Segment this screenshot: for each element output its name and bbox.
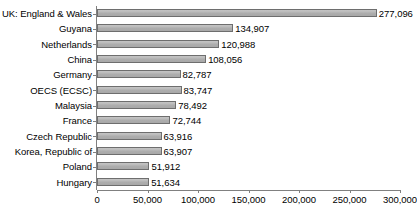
bar <box>97 132 162 140</box>
bar-row: Germany82,787 <box>0 67 409 81</box>
bar <box>97 70 181 78</box>
y-axis-tick <box>93 90 96 91</box>
y-axis-tick <box>93 167 96 168</box>
x-axis-tick-mark <box>198 190 199 193</box>
bar-value-label: 83,747 <box>184 84 213 95</box>
x-axis-tick-label: 200,000 <box>282 194 316 205</box>
bar-row: France72,744 <box>0 113 409 127</box>
category-label: Guyana <box>59 23 92 34</box>
x-axis-tick-mark <box>299 190 300 193</box>
bar-value-label: 78,492 <box>178 100 207 111</box>
bar-value-label: 120,988 <box>221 38 255 49</box>
category-label: UK: England & Wales <box>2 8 92 19</box>
bar-row: UK: England & Wales277,096 <box>0 6 409 20</box>
category-label: Hungary <box>56 176 92 187</box>
x-axis-tick-mark <box>249 190 250 193</box>
bar <box>97 86 182 94</box>
y-axis-tick <box>93 182 96 183</box>
category-label: OECS (ECSC) <box>30 84 92 95</box>
bar-value-label: 108,056 <box>208 54 242 65</box>
category-label: Korea, Republic of <box>15 146 92 157</box>
y-axis-tick <box>93 29 96 30</box>
y-axis-tick <box>93 152 96 153</box>
y-axis-tick <box>93 121 96 122</box>
bar-row: Guyana134,907 <box>0 21 409 35</box>
bar-value-label: 134,907 <box>235 23 269 34</box>
bar-rows: UK: England & Wales277,096Guyana134,907N… <box>0 6 409 190</box>
bar-row: Netherlands120,988 <box>0 37 409 51</box>
x-axis-tick-label: 150,000 <box>232 194 266 205</box>
bar-row: China108,056 <box>0 52 409 66</box>
x-axis-ticks: 050,000100,000150,000200,000250,000300,0… <box>0 190 409 214</box>
bar <box>97 40 219 48</box>
x-axis-tick-mark <box>97 190 98 193</box>
x-axis-tick-mark <box>350 190 351 193</box>
y-axis-tick <box>93 106 96 107</box>
y-axis-tick <box>93 44 96 45</box>
bar <box>97 101 176 109</box>
category-label: China <box>67 54 92 65</box>
y-axis-tick <box>93 14 96 15</box>
x-axis-tick-mark <box>148 190 149 193</box>
y-axis-tick <box>93 75 96 76</box>
bar-value-label: 63,907 <box>164 146 193 157</box>
bar-row: Czech Republic63,916 <box>0 129 409 143</box>
bar <box>97 55 206 63</box>
bar <box>97 116 170 124</box>
bar-row: Malaysia78,492 <box>0 98 409 112</box>
bar <box>97 178 149 186</box>
bar-value-label: 51,634 <box>151 176 180 187</box>
bar-value-label: 51,912 <box>151 161 180 172</box>
x-axis-tick-label: 250,000 <box>333 194 367 205</box>
category-label: Germany <box>53 69 92 80</box>
x-axis-tick-mark <box>400 190 401 193</box>
x-axis-tick-label: 300,000 <box>383 194 417 205</box>
category-label: Netherlands <box>41 38 92 49</box>
y-axis-tick <box>93 136 96 137</box>
y-axis-tick <box>93 60 96 61</box>
bar <box>97 162 149 170</box>
bar-value-label: 277,096 <box>379 8 413 19</box>
category-label: Malaysia <box>55 100 92 111</box>
category-label: Czech Republic <box>26 130 92 141</box>
bar-value-label: 72,744 <box>172 115 201 126</box>
bar-row: Poland51,912 <box>0 159 409 173</box>
x-axis-tick-label: 100,000 <box>181 194 215 205</box>
bar-row: OECS (ECSC)83,747 <box>0 83 409 97</box>
bar-row: Hungary51,634 <box>0 175 409 189</box>
bar-value-label: 82,787 <box>183 69 212 80</box>
x-axis-tick-label: 50,000 <box>133 194 162 205</box>
x-axis-tick-label: 0 <box>94 194 99 205</box>
bar <box>97 9 377 17</box>
bar <box>97 147 162 155</box>
category-label: France <box>63 115 92 126</box>
bar-row: Korea, Republic of63,907 <box>0 144 409 158</box>
category-label: Poland <box>63 161 92 172</box>
bar <box>97 24 233 32</box>
bar-value-label: 63,916 <box>164 130 193 141</box>
